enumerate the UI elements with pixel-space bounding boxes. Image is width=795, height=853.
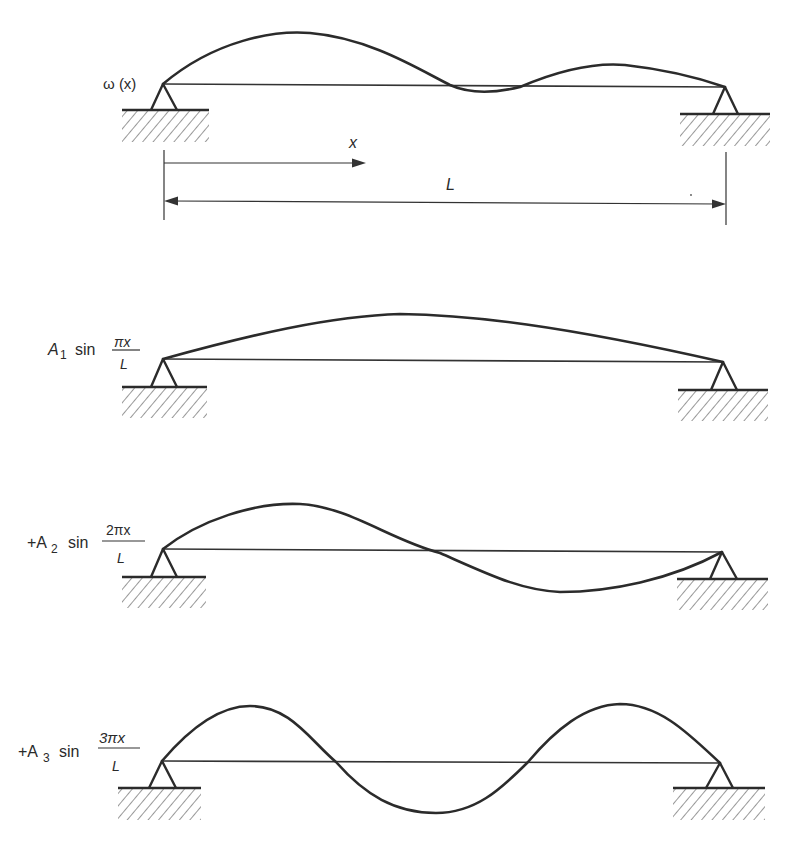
svg-text:sin: sin — [59, 743, 79, 760]
panel-general-deflection: ω (x) x L — [103, 33, 770, 225]
mode-1-label: A 1 sin πx L — [47, 334, 140, 372]
svg-text:+A: +A — [27, 534, 47, 551]
right-pin-support — [677, 552, 768, 610]
deflection-label: ω (x) — [103, 75, 136, 92]
right-pin-support — [680, 87, 770, 146]
panel-mode-2: +A 2 sin 2πx L — [27, 504, 768, 610]
svg-text:L: L — [117, 550, 125, 566]
mode-3-label: +A 3 sin 3πx L — [18, 729, 140, 774]
x-arrow-head — [352, 159, 366, 168]
mode-3-curve — [162, 704, 720, 813]
mode-1-curve — [163, 314, 723, 362]
left-pin-support — [122, 84, 209, 142]
beam-mode-diagram: ω (x) x L A 1 — [0, 0, 795, 853]
right-pin-support — [673, 763, 765, 820]
L-label: L — [446, 176, 455, 193]
beam-axis — [163, 549, 722, 552]
deflection-curve — [163, 33, 725, 92]
svg-text:A: A — [47, 341, 59, 358]
beam-axis — [162, 761, 720, 763]
beam-axis — [163, 84, 725, 87]
mode-2-curve — [163, 504, 722, 592]
svg-text:2πx: 2πx — [106, 522, 130, 538]
svg-text:πx: πx — [114, 334, 131, 350]
svg-text:2: 2 — [51, 542, 58, 556]
svg-text:+A: +A — [18, 743, 38, 760]
panel-mode-3: +A 3 sin 3πx L — [18, 704, 765, 820]
svg-text:1: 1 — [60, 348, 67, 362]
L-arrow-right-head — [712, 200, 726, 209]
x-label: x — [348, 134, 358, 151]
beam-axis — [163, 359, 723, 362]
svg-text:L: L — [112, 758, 120, 774]
dimension-lines: x L — [164, 134, 726, 225]
mode-2-label: +A 2 sin 2πx L — [27, 522, 145, 566]
left-pin-support — [122, 549, 206, 608]
left-pin-support — [118, 761, 201, 820]
svg-text:sin: sin — [75, 341, 95, 358]
svg-text:L: L — [120, 356, 128, 372]
right-pin-support — [678, 362, 768, 421]
panel-mode-1: A 1 sin πx L — [47, 314, 768, 421]
svg-text:3πx: 3πx — [99, 729, 125, 746]
L-arrow-left-head — [164, 197, 178, 206]
svg-text:3: 3 — [43, 751, 50, 765]
left-pin-support — [122, 359, 207, 418]
svg-text:sin: sin — [68, 534, 88, 551]
